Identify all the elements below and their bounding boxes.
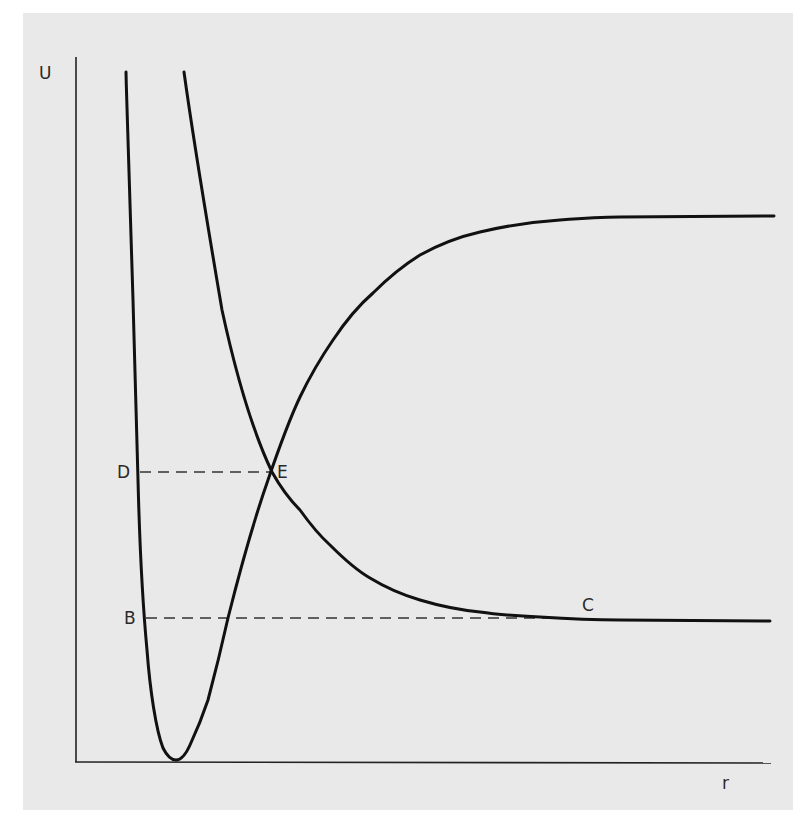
point-d-label: D — [117, 464, 130, 481]
x-axis-label: r — [722, 775, 729, 792]
y-axis-label: U — [39, 65, 51, 82]
potential-energy-diagram — [0, 0, 811, 828]
point-e-label: E — [277, 464, 288, 481]
point-c-label: C — [582, 597, 594, 614]
point-b-label: B — [124, 610, 136, 627]
bound-potential-curve — [126, 72, 774, 760]
x-axis — [75, 762, 771, 763]
repulsive-curve — [184, 72, 770, 621]
